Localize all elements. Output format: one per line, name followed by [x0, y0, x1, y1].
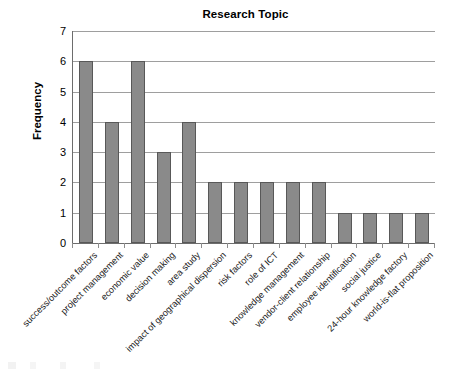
bar [338, 213, 352, 243]
x-tick-mark-4 [175, 243, 176, 248]
bar [131, 61, 145, 243]
gridline-6 [73, 61, 435, 62]
bar [415, 213, 429, 243]
x-tick-mark-11 [356, 243, 357, 248]
gridline-4 [73, 122, 435, 123]
x-tick-mark-5 [201, 243, 202, 248]
bar [79, 61, 93, 243]
y-tick-label-7: 7 [44, 26, 66, 37]
bar [157, 152, 171, 243]
x-tick-mark-1 [98, 243, 99, 248]
chart-title: Research Topic [0, 8, 451, 20]
y-tick-label-3: 3 [44, 147, 66, 158]
x-tick-mark-12 [382, 243, 383, 248]
x-tick-mark-3 [150, 243, 151, 248]
x-tick-mark-14 [434, 243, 435, 248]
x-tick-mark-8 [279, 243, 280, 248]
gridline-1 [73, 213, 435, 214]
bar [182, 122, 196, 243]
x-tick-mark-6 [227, 243, 228, 248]
x-tick-mark-7 [253, 243, 254, 248]
gridline-7 [73, 31, 435, 32]
y-tick-label-1: 1 [44, 207, 66, 218]
x-tick-mark-10 [331, 243, 332, 248]
bar [234, 182, 248, 243]
gridline-3 [73, 152, 435, 153]
plot-area [72, 31, 435, 244]
y-tick-label-0: 0 [44, 238, 66, 249]
y-tick-label-6: 6 [44, 56, 66, 67]
bar [286, 182, 300, 243]
x-tick-mark-13 [408, 243, 409, 248]
bar-chart: Research Topic Frequency 01234567 succes… [0, 0, 451, 373]
y-tick-label-4: 4 [44, 116, 66, 127]
y-axis-tick-labels: 01234567 [42, 31, 66, 243]
y-tick-label-2: 2 [44, 177, 66, 188]
y-tick-label-5: 5 [44, 86, 66, 97]
bar [105, 122, 119, 243]
bar [389, 213, 403, 243]
x-tick-mark-9 [305, 243, 306, 248]
bar [312, 182, 326, 243]
bar [260, 182, 274, 243]
x-tick-mark-2 [124, 243, 125, 248]
gridline-5 [73, 92, 435, 93]
bar [363, 213, 377, 243]
scan-artifact [8, 362, 128, 369]
bar [208, 182, 222, 243]
x-tick-mark-0 [72, 243, 73, 248]
gridline-2 [73, 182, 435, 183]
